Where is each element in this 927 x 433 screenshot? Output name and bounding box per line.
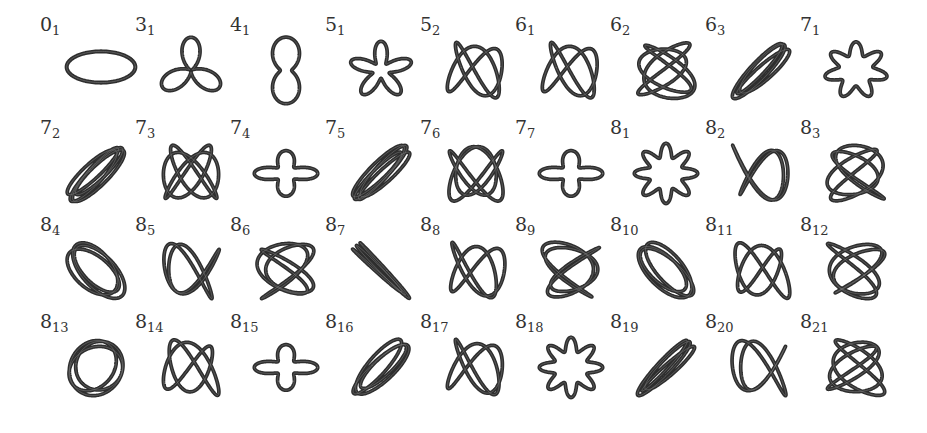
knot-cell-8-9: 89 xyxy=(515,215,610,313)
crossing-number: 8 xyxy=(40,213,52,235)
knot-label: 74 xyxy=(230,118,250,140)
knot-cell-8-19: 819 xyxy=(610,312,705,410)
knot-diagram-icon xyxy=(345,136,417,208)
knot-cell-8-8: 88 xyxy=(420,215,515,313)
knot-cell-8-5: 85 xyxy=(135,215,230,313)
knot-label: 62 xyxy=(610,15,630,37)
crossing-number: 8 xyxy=(705,213,717,235)
knot-cell-7-7: 77 xyxy=(515,118,610,216)
knot-label: 83 xyxy=(800,118,820,140)
crossing-number: 8 xyxy=(610,213,622,235)
crossing-number: 3 xyxy=(135,13,147,35)
knot-diagram-icon xyxy=(155,330,227,402)
knot-cell-8-21: 821 xyxy=(800,312,895,410)
knot-diagram-icon xyxy=(250,136,322,208)
knot-diagram-icon xyxy=(535,136,607,208)
knot-cell-8-4: 84 xyxy=(40,215,135,313)
knot-cell-8-14: 814 xyxy=(135,312,230,410)
crossing-number: 0 xyxy=(40,13,52,35)
knot-diagram-icon xyxy=(820,136,892,208)
knot-label: 01 xyxy=(40,15,60,37)
knot-diagram-icon xyxy=(440,330,512,402)
crossing-number: 6 xyxy=(515,13,527,35)
knot-cell-8-12: 812 xyxy=(800,215,895,313)
knot-diagram-icon xyxy=(250,330,322,402)
crossing-number: 5 xyxy=(325,13,337,35)
knot-label: 81 xyxy=(610,118,630,140)
knot-label: 61 xyxy=(515,15,535,37)
knot-label: 31 xyxy=(135,15,155,37)
knot-diagram-icon xyxy=(820,233,892,305)
knot-cell-7-2: 72 xyxy=(40,118,135,216)
knot-cell-7-3: 73 xyxy=(135,118,230,216)
knot-diagram-icon xyxy=(535,33,607,105)
knot-cell-7-5: 75 xyxy=(325,118,420,216)
crossing-number: 7 xyxy=(515,116,527,138)
crossing-number: 5 xyxy=(420,13,432,35)
knot-cell-8-3: 83 xyxy=(800,118,895,216)
knot-diagram-icon xyxy=(60,136,132,208)
knot-label: 76 xyxy=(420,118,440,140)
knot-diagram-icon xyxy=(60,330,132,402)
knot-cell-7-6: 76 xyxy=(420,118,515,216)
knot-diagram-icon xyxy=(155,136,227,208)
knot-label: 82 xyxy=(705,118,725,140)
knot-diagram-icon xyxy=(820,330,892,402)
knot-label: 87 xyxy=(325,215,345,237)
knot-cell-8-6: 86 xyxy=(230,215,325,313)
crossing-number: 8 xyxy=(325,213,337,235)
knot-label: 63 xyxy=(705,15,725,37)
knot-diagram-icon xyxy=(440,136,512,208)
knot-diagram-icon xyxy=(250,33,322,105)
knot-diagram-icon xyxy=(630,233,702,305)
knot-cell-8-13: 813 xyxy=(40,312,135,410)
knot-cell-8-2: 82 xyxy=(705,118,800,216)
crossing-number: 7 xyxy=(800,13,812,35)
crossing-number: 6 xyxy=(610,13,622,35)
knot-label: 85 xyxy=(135,215,155,237)
knot-diagram-icon xyxy=(440,233,512,305)
knot-label: 71 xyxy=(800,15,820,37)
knot-label: 72 xyxy=(40,118,60,140)
crossing-number: 8 xyxy=(515,310,527,332)
knot-diagram-icon xyxy=(345,233,417,305)
knot-label: 41 xyxy=(230,15,250,37)
knot-diagram-icon xyxy=(345,330,417,402)
crossing-number: 7 xyxy=(420,116,432,138)
knot-diagram-icon xyxy=(630,33,702,105)
knot-cell-0-1: 01 xyxy=(40,15,135,113)
knot-cell-6-1: 61 xyxy=(515,15,610,113)
knot-diagram-icon xyxy=(725,136,797,208)
knot-diagram-icon xyxy=(725,330,797,402)
crossing-number: 8 xyxy=(800,116,812,138)
knot-diagram-icon xyxy=(60,233,132,305)
crossing-number: 8 xyxy=(800,310,812,332)
knot-label: 89 xyxy=(515,215,535,237)
knot-cell-3-1: 31 xyxy=(135,15,230,113)
knot-cell-6-3: 63 xyxy=(705,15,800,113)
knot-diagram-icon xyxy=(535,233,607,305)
crossing-number: 7 xyxy=(325,116,337,138)
crossing-number: 8 xyxy=(40,310,52,332)
crossing-number: 8 xyxy=(135,213,147,235)
knot-cell-8-15: 815 xyxy=(230,312,325,410)
knot-cell-6-2: 62 xyxy=(610,15,705,113)
knot-label: 52 xyxy=(420,15,440,37)
knot-label: 51 xyxy=(325,15,345,37)
crossing-number: 8 xyxy=(705,116,717,138)
knot-index: 1 xyxy=(52,23,60,38)
knot-label: 77 xyxy=(515,118,535,140)
crossing-number: 8 xyxy=(230,310,242,332)
knot-diagram-icon xyxy=(630,136,702,208)
knot-cell-8-20: 820 xyxy=(705,312,800,410)
knot-cell-8-1: 81 xyxy=(610,118,705,216)
knot-cell-7-1: 71 xyxy=(800,15,895,113)
crossing-number: 4 xyxy=(230,13,242,35)
crossing-number: 8 xyxy=(325,310,337,332)
crossing-number: 8 xyxy=(515,213,527,235)
crossing-number: 8 xyxy=(800,213,812,235)
crossing-number: 8 xyxy=(610,310,622,332)
knot-diagram-icon xyxy=(250,233,322,305)
knot-label: 75 xyxy=(325,118,345,140)
knot-cell-8-17: 817 xyxy=(420,312,515,410)
